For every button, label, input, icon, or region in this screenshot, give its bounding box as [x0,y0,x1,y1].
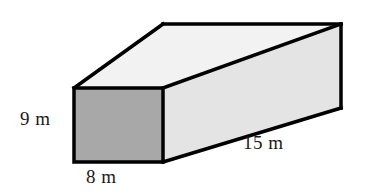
dimension-label-width: 8 m [86,167,117,186]
dimension-label-length: 15 m [243,133,284,152]
prism-figure: 9 m 8 m 15 m [0,0,368,195]
dimension-label-height: 9 m [20,109,51,128]
prism-diagram [0,0,368,195]
prism-front-face [74,88,163,162]
